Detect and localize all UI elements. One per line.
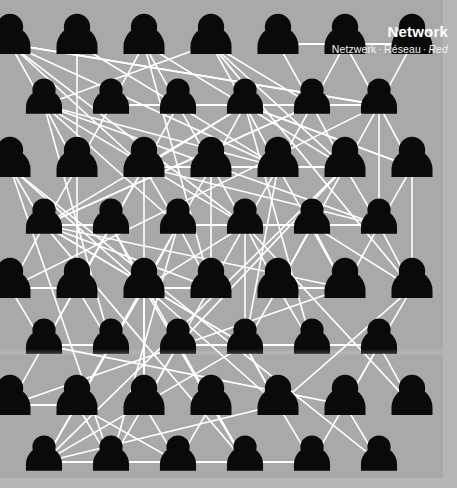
person-icon — [0, 258, 31, 298]
person-icon — [124, 258, 165, 298]
person-icon — [57, 258, 98, 298]
person-icon — [0, 14, 31, 54]
person-icon — [57, 14, 98, 54]
poster-canvas: Network Netzwerk·Réseau·Red — [0, 0, 457, 488]
network-edge — [278, 105, 379, 288]
person-icon — [392, 258, 433, 298]
person-icon — [325, 258, 366, 298]
person-icon — [392, 137, 433, 177]
person-icon — [258, 375, 299, 415]
person-icon — [0, 137, 31, 177]
person-icon — [325, 137, 366, 177]
network-graphic — [0, 0, 457, 488]
person-icon — [392, 14, 433, 54]
person-icon — [0, 375, 31, 415]
person-icon — [392, 375, 433, 415]
person-icon — [191, 258, 232, 298]
person-icon — [191, 14, 232, 54]
network-edge — [10, 225, 111, 405]
person-icon — [258, 258, 299, 298]
person-icon — [124, 137, 165, 177]
person-icon — [325, 14, 366, 54]
person-icon — [57, 137, 98, 177]
network-edge — [10, 105, 379, 288]
person-icon — [124, 14, 165, 54]
person-icon — [258, 14, 299, 54]
